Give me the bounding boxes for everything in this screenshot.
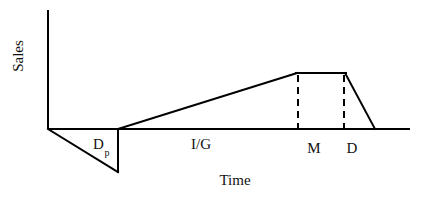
x-axis-label: Time: [219, 173, 250, 188]
phase-label-development: Dp: [93, 137, 109, 155]
phase-label-development-main: D: [93, 136, 104, 152]
phase-label-decline: D: [347, 141, 358, 156]
growth-segment: [118, 73, 297, 129]
phase-label-maturity: M: [307, 141, 320, 156]
y-axis-label: Sales: [11, 40, 26, 72]
decline-segment: [345, 73, 375, 129]
phase-label-development-subscript: p: [104, 147, 109, 158]
phase-label-introduction-growth: I/G: [191, 137, 211, 152]
product-life-cycle-chart: Sales Time Dp I/G M D: [0, 0, 430, 200]
chart-canvas: [0, 0, 430, 200]
